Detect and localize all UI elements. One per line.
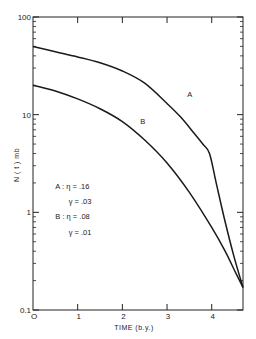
parameter-annotation: γ = .01 <box>69 228 92 237</box>
curve-label-b: B <box>140 117 145 126</box>
series-group <box>33 46 243 287</box>
y-tick-label: 1 <box>27 208 32 217</box>
curve-label-a: A <box>187 90 192 99</box>
annotations: A : η = .16γ = .03B : η = .08γ = .01 <box>55 182 91 237</box>
y-axis-title: N ( t ) mb <box>13 148 21 182</box>
y-tick-label: 0.1 <box>20 306 32 315</box>
x-tick-label: 2 <box>121 312 126 321</box>
x-tick-label: 4 <box>210 312 215 321</box>
y-minor-ticks <box>33 21 243 280</box>
parameter-annotation: γ = .03 <box>69 197 92 206</box>
y-axis-ticks: 0.1110100 <box>18 13 243 315</box>
parameter-annotation: A : η = .16 <box>55 182 89 191</box>
x-tick-label: 3 <box>166 312 171 321</box>
y-tick-label: 100 <box>18 13 32 22</box>
chart: O1234 0.1110100 AB A : η = .16γ = .03B :… <box>0 0 256 339</box>
parameter-annotation: B : η = .08 <box>55 212 89 221</box>
x-tick-label: 1 <box>76 312 81 321</box>
x-tick-label: O <box>31 312 37 321</box>
series-line-a <box>33 46 243 287</box>
x-axis-ticks: O1234 <box>31 17 216 321</box>
y-tick-label: 10 <box>22 111 31 120</box>
x-axis-title: TIME (b.y.) <box>114 324 154 332</box>
